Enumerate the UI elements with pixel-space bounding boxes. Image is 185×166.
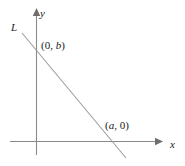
y-intercept-label: (0, b): [41, 40, 65, 51]
x-intercept-label: (a, 0): [105, 120, 129, 131]
line-L: [22, 33, 126, 158]
y-intercept-close-paren: ): [61, 39, 65, 51]
x-intercept-close-paren: ): [125, 119, 129, 131]
figure-graphics: [0, 0, 185, 166]
y-axis-label: y: [40, 8, 45, 19]
line-label-L: L: [11, 22, 17, 33]
x-axis-arrowhead: [155, 138, 163, 145]
figure-coordinate-plane: y x L (0, b) (a, 0): [0, 0, 185, 166]
x-axis-label: x: [170, 139, 175, 150]
